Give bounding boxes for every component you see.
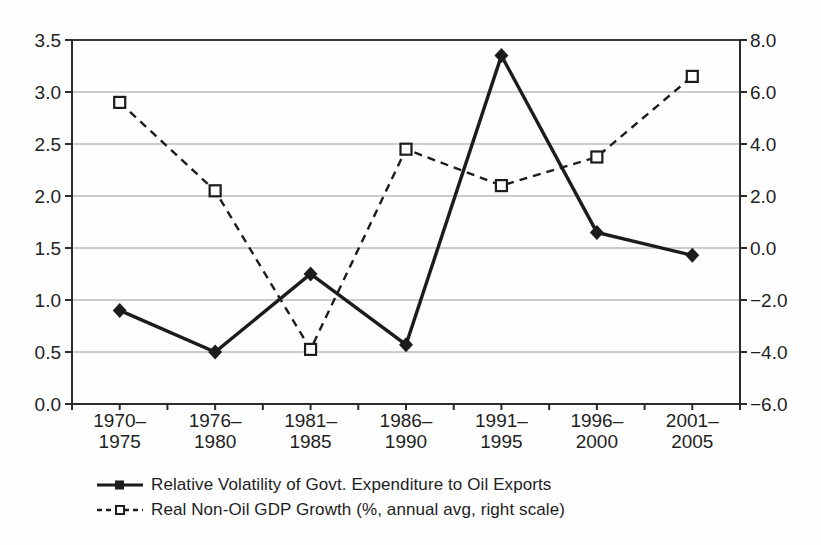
left-axis-tick-label: 3.0 xyxy=(35,82,61,103)
legend-label-gdp-growth: Real Non-Oil GDP Growth (%, annual avg, … xyxy=(151,500,565,520)
right-axis-tick-label: −4.0 xyxy=(750,342,788,363)
right-axis-labels: 8.06.04.02.00.0−2.0−4.0−6.0 xyxy=(750,30,788,415)
right-axis-tick-label: −6.0 xyxy=(750,394,788,415)
legend-label-volatility: Relative Volatility of Govt. Expenditure… xyxy=(151,475,551,495)
x-axis-tick-label: 1991–1995 xyxy=(475,410,528,452)
left-axis-tick-label: 0.0 xyxy=(35,394,61,415)
open-square-marker xyxy=(210,185,221,196)
left-axis-tick-label: 0.5 xyxy=(35,342,61,363)
x-axis-tick-label: 1981–1985 xyxy=(284,410,337,452)
x-axis-tick-label: 1996–2000 xyxy=(570,410,623,452)
gridlines xyxy=(72,40,740,352)
right-axis-tick-label: 6.0 xyxy=(750,82,776,103)
x-axis-tick-label: 1986–1990 xyxy=(380,410,433,452)
open-square-marker xyxy=(401,144,412,155)
x-axis-labels: 1970–19751976–19801981–19851986–19901991… xyxy=(93,410,719,452)
right-axis-tick-label: 0.0 xyxy=(750,238,776,259)
right-axis-tick-label: 2.0 xyxy=(750,186,776,207)
legend-item-gdp-growth: Real Non-Oil GDP Growth (%, annual avg, … xyxy=(97,497,565,522)
left-axis-tick-label: 2.5 xyxy=(35,134,61,155)
open-square-marker xyxy=(305,344,316,355)
legend-solid-line-filled-square-icon xyxy=(97,478,143,492)
left-axis-tick-label: 3.5 xyxy=(35,30,61,51)
left-axis-tick-label: 1.5 xyxy=(35,238,61,259)
filled-diamond-marker xyxy=(685,248,699,263)
open-square-marker xyxy=(687,71,698,82)
chart-svg: 3.53.02.52.01.51.00.50.08.06.04.02.00.0−… xyxy=(0,0,821,462)
x-axis-tick-label: 1976–1980 xyxy=(189,410,242,452)
filled-diamond-marker xyxy=(113,303,127,318)
series-line-1 xyxy=(120,76,693,349)
legend: Relative Volatility of Govt. Expenditure… xyxy=(97,472,565,522)
right-axis-tick-label: 8.0 xyxy=(750,30,776,51)
open-square-marker xyxy=(114,97,125,108)
legend-dashed-line-open-square-icon xyxy=(97,503,143,517)
open-square-marker xyxy=(496,180,507,191)
right-axis-tick-label: 4.0 xyxy=(750,134,776,155)
left-axis-labels: 3.53.02.52.01.51.00.50.0 xyxy=(35,30,61,415)
figure: 3.53.02.52.01.51.00.50.08.06.04.02.00.0−… xyxy=(0,0,821,545)
filled-diamond-marker xyxy=(494,48,508,63)
x-axis-tick-label: 2001–2005 xyxy=(666,410,719,452)
series-line-0 xyxy=(120,56,693,352)
legend-item-volatility: Relative Volatility of Govt. Expenditure… xyxy=(97,472,565,497)
open-square-marker xyxy=(591,152,602,163)
left-axis-tick-label: 1.0 xyxy=(35,290,61,311)
right-axis-tick-label: −2.0 xyxy=(750,290,788,311)
left-axis-tick-label: 2.0 xyxy=(35,186,61,207)
filled-diamond-marker xyxy=(590,225,604,240)
axes xyxy=(65,40,747,410)
x-axis-tick-label: 1970–1975 xyxy=(93,410,146,452)
